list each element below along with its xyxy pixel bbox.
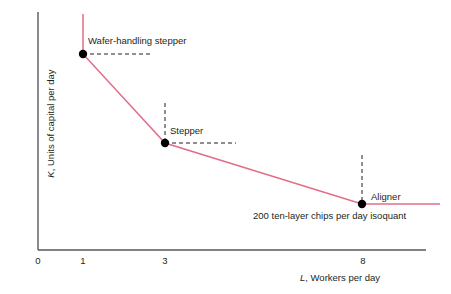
x-tick-0: 0: [30, 255, 46, 266]
data-point-wafer-handling-stepper: [79, 50, 87, 58]
y-axis-variable: K: [45, 171, 56, 177]
label-wafer-handling-stepper: Wafer-handling stepper: [88, 35, 186, 46]
isoquant-figure: Wafer-handling stepper Stepper Aligner 2…: [0, 0, 451, 294]
y-axis-title-text: , Units of capital per day: [45, 69, 56, 171]
label-aligner: Aligner: [371, 191, 401, 202]
x-axis-title: L, Workers per day: [300, 272, 380, 283]
x-tick-8: 8: [355, 255, 371, 266]
x-axis-title-text: , Workers per day: [305, 272, 380, 283]
data-point-stepper: [161, 139, 169, 147]
x-tick-1: 1: [75, 255, 91, 266]
data-point-aligner: [358, 200, 366, 208]
isoquant-caption: 200 ten-layer chips per day isoquant: [253, 210, 406, 221]
isoquant-plot: [0, 0, 451, 294]
y-axis-title: K, Units of capital per day: [45, 34, 56, 214]
x-tick-3: 3: [157, 255, 173, 266]
label-stepper: Stepper: [170, 125, 203, 136]
